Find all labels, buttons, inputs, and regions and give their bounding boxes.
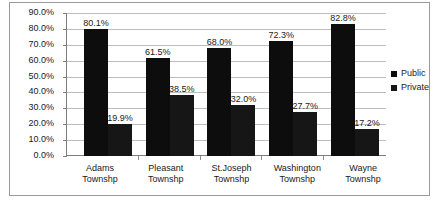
bar-value-label: 32.0% — [231, 94, 257, 104]
y-axis-tick — [63, 140, 67, 141]
bar-private: 27.7% — [293, 112, 317, 156]
x-axis-tick — [138, 156, 139, 160]
chart-legend: PublicPrivate — [391, 69, 429, 97]
bar-private: 19.9% — [108, 124, 132, 156]
bar-group: 61.5%38.5% — [139, 13, 201, 156]
bar-value-label: 72.3% — [269, 30, 295, 40]
bar-public: 61.5% — [146, 58, 170, 156]
category-label-line: Pleasant — [133, 163, 199, 174]
legend-item-label: Public — [401, 69, 426, 78]
y-axis-tick — [63, 61, 67, 62]
category-label-line: Townshp — [67, 174, 133, 185]
bar-private: 17.2% — [355, 129, 379, 156]
category-label-line: Adams — [67, 163, 133, 174]
bar-public: 72.3% — [269, 41, 293, 156]
y-axis-tick-label: 30.0% — [28, 103, 54, 112]
category-label-line: Townshp — [199, 174, 265, 185]
bar-group: 82.8%17.2% — [324, 13, 386, 156]
bar-groups: 80.1%19.9%61.5%38.5%68.0%32.0%72.3%27.7%… — [77, 13, 386, 156]
legend-item-private[interactable]: Private — [391, 83, 429, 92]
bar-value-label: 82.8% — [330, 13, 356, 23]
x-axis-category-labels: AdamsTownshpPleasantTownshpSt.JosephTown… — [67, 163, 396, 185]
y-axis-tick — [63, 77, 67, 78]
x-axis-tick — [323, 156, 324, 160]
category-label-line: Townshp — [264, 174, 330, 185]
legend-item-public[interactable]: Public — [391, 69, 429, 78]
bar-private: 32.0% — [231, 105, 255, 156]
y-axis-tick — [63, 45, 67, 46]
y-axis-tick — [63, 156, 67, 157]
category-label-line: Wayne — [330, 163, 396, 174]
bar-public: 80.1% — [84, 29, 108, 156]
x-axis-tick — [261, 156, 262, 160]
bar-value-label: 68.0% — [207, 37, 233, 47]
x-axis-tick — [200, 156, 201, 160]
bar-group: 68.0%32.0% — [201, 13, 263, 156]
plot-area: 80.1%19.9%61.5%38.5%68.0%32.0%72.3%27.7%… — [66, 13, 386, 156]
category-label-line: Townshp — [330, 174, 396, 185]
x-axis-category-label: WashingtonTownshp — [264, 163, 330, 185]
bar-public: 68.0% — [207, 48, 231, 156]
bar-value-label: 80.1% — [83, 18, 109, 28]
bar-value-label: 17.2% — [354, 118, 380, 128]
bar-group: 80.1%19.9% — [77, 13, 139, 156]
chart-frame: 80.1%19.9%61.5%38.5%68.0%32.0%72.3%27.7%… — [9, 2, 430, 196]
y-axis-tick-label: 20.0% — [28, 119, 54, 128]
y-axis-tick — [63, 92, 67, 93]
x-axis-category-label: AdamsTownshp — [67, 163, 133, 185]
bar-value-label: 38.5% — [169, 84, 195, 94]
y-axis-tick-label: 10.0% — [28, 135, 54, 144]
category-label-line: Townshp — [133, 174, 199, 185]
chart-plot: 80.1%19.9%61.5%38.5%68.0%32.0%72.3%27.7%… — [57, 13, 386, 158]
bar-public: 82.8% — [331, 24, 355, 156]
y-axis-tick-label: 90.0% — [28, 8, 54, 17]
x-axis-category-label: WayneTownshp — [330, 163, 396, 185]
y-axis-tick-label: 0.0% — [33, 151, 54, 160]
y-axis-tick-label: 70.0% — [28, 40, 54, 49]
y-axis-tick-label: 80.0% — [28, 24, 54, 33]
bar-private: 38.5% — [170, 95, 194, 156]
legend-item-label: Private — [401, 83, 429, 92]
x-axis-category-label: PleasantTownshp — [133, 163, 199, 185]
category-label-line: St.Joseph — [199, 163, 265, 174]
y-axis-tick — [63, 108, 67, 109]
y-axis-tick-label: 60.0% — [28, 56, 54, 65]
y-axis-tick — [63, 124, 67, 125]
legend-swatch-icon — [391, 85, 397, 91]
x-axis-category-label: St.JosephTownshp — [199, 163, 265, 185]
category-label-line: Washington — [264, 163, 330, 174]
bar-value-label: 61.5% — [145, 47, 171, 57]
y-axis-tick — [63, 13, 67, 14]
y-axis-tick — [63, 29, 67, 30]
legend-swatch-icon — [391, 71, 397, 77]
y-axis-tick-label: 50.0% — [28, 72, 54, 81]
bar-group: 72.3%27.7% — [262, 13, 324, 156]
y-axis-tick-label: 40.0% — [28, 87, 54, 96]
bar-value-label: 27.7% — [293, 101, 319, 111]
bar-value-label: 19.9% — [107, 113, 133, 123]
